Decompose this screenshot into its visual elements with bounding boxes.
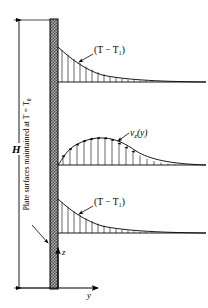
- plate-surface-label: Plate surfaces maintained at T = T₀: [22, 85, 31, 225]
- axis-label-y: y: [87, 290, 91, 300]
- velocity-argument: (y): [137, 128, 148, 138]
- velocity-profile-label: vz(y): [130, 128, 147, 139]
- temperature-profile-top-label: (T − T₁): [94, 45, 125, 55]
- heated-plate: [50, 19, 58, 289]
- plate-label-leader: [32, 225, 48, 243]
- axis-label-z: z: [62, 247, 65, 257]
- coordinate-axes: [20, 248, 98, 288]
- temperature-profile-top: [58, 47, 206, 82]
- height-dimension-label: H: [11, 143, 22, 155]
- temperature-profile-bottom-label: (T − T₁): [94, 197, 125, 207]
- temperature-profile-bottom: [58, 199, 206, 233]
- free-convection-figure: H Plate surfaces maintained at T = T₀ (T…: [0, 0, 208, 308]
